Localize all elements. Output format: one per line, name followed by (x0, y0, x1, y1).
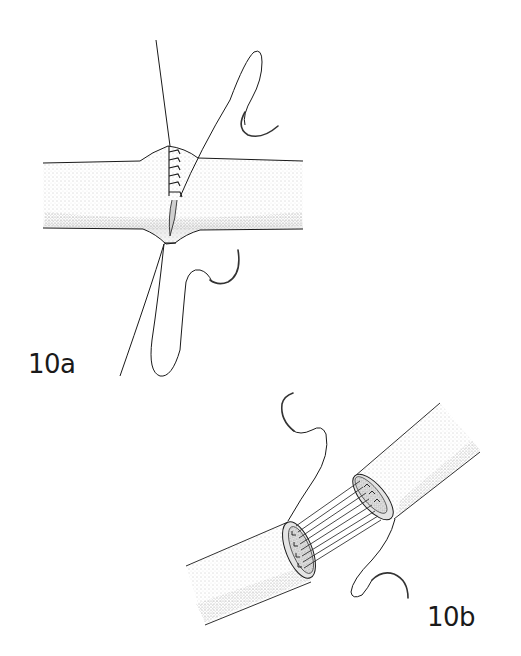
suture-thread-10b-lower (351, 519, 395, 597)
suture-thread-10b-upper (288, 428, 327, 521)
panel-10a (43, 40, 303, 376)
suture-thread-lower-loop (151, 244, 212, 376)
panel-label-10b: 10b (427, 604, 475, 630)
needle-10b-lower-icon (372, 573, 408, 598)
anastomosis-illustration (0, 0, 521, 656)
suture-thread-lower-straight (120, 244, 164, 376)
needle-10b-upper-icon (282, 393, 294, 431)
panel-10b (186, 393, 480, 625)
suture-thread-upper-straight (156, 40, 170, 146)
panel-label-10a: 10a (28, 351, 76, 377)
needle-lower-icon (210, 250, 239, 284)
needle-upper-icon (241, 112, 278, 136)
